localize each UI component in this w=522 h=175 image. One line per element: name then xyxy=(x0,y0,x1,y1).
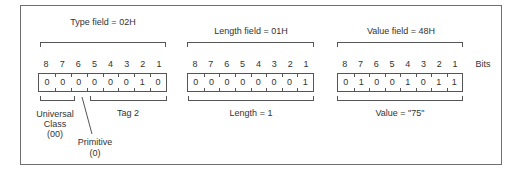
bit-cell: 1 xyxy=(400,74,416,91)
bit-cell: 0 xyxy=(338,74,354,91)
bit-cell: 0 xyxy=(55,74,71,91)
bit-cell: 1 xyxy=(447,74,463,91)
bit-cell: 0 xyxy=(385,74,401,91)
bit-cell: 0 xyxy=(266,74,282,91)
bit-number: 3 xyxy=(266,59,282,69)
bit-cell: 0 xyxy=(369,74,385,91)
primitive-label-line2: (0) xyxy=(90,148,101,158)
bit-number: 2 xyxy=(282,59,298,69)
value-bit-numbers: 8 7 6 5 4 3 2 1 xyxy=(337,59,463,69)
length-field-bits-box: 0 0 0 0 0 0 0 1 xyxy=(187,73,314,92)
bit-number: 1 xyxy=(298,59,314,69)
value-field-bits-box: 0 1 0 0 1 0 1 1 xyxy=(337,73,463,92)
bit-number: 8 xyxy=(38,59,54,69)
bit-number: 3 xyxy=(119,59,135,69)
bits-label: Bits xyxy=(475,59,490,69)
bit-number: 4 xyxy=(103,59,119,69)
bit-cell: 1 xyxy=(431,74,447,91)
bit-cell: 1 xyxy=(134,74,150,91)
type-field-bits-box: 0 0 0 0 0 0 1 0 xyxy=(38,73,167,92)
value-field-title: Value field = 48H xyxy=(367,26,435,36)
bit-cell: 0 xyxy=(188,74,204,91)
class-label-line3: (00) xyxy=(47,129,63,139)
bit-cell: 1 xyxy=(297,74,313,91)
class-label-line2: Class xyxy=(44,119,67,129)
bit-cell: 0 xyxy=(87,74,103,91)
bit-cell: 0 xyxy=(39,74,55,91)
bit-number: 5 xyxy=(235,59,251,69)
bit-number: 1 xyxy=(447,59,463,69)
bit-number: 2 xyxy=(432,59,448,69)
bit-number: 7 xyxy=(54,59,70,69)
type-bit-numbers: 8 7 6 5 4 3 2 1 xyxy=(38,59,167,69)
bit-cell: 0 xyxy=(150,74,166,91)
tag-label: Tag 2 xyxy=(117,108,139,118)
bit-cell: 0 xyxy=(71,74,87,91)
value-field-top-bracket xyxy=(337,42,463,47)
length-field-title: Length field = 01H xyxy=(214,26,287,36)
length-caption: Length = 1 xyxy=(230,108,273,118)
primitive-label-line1: Primitive xyxy=(78,137,113,147)
bit-number: 6 xyxy=(219,59,235,69)
bit-number: 7 xyxy=(203,59,219,69)
bit-cell: 0 xyxy=(103,74,119,91)
bit-cell: 0 xyxy=(416,74,432,91)
bit-cell: 0 xyxy=(204,74,220,91)
bit-number: 6 xyxy=(70,59,86,69)
tag-bracket xyxy=(90,96,167,101)
bit-cell: 0 xyxy=(251,74,267,91)
bit-cell: 0 xyxy=(219,74,235,91)
bit-number: 3 xyxy=(416,59,432,69)
bit-number: 4 xyxy=(251,59,267,69)
bit-number: 1 xyxy=(151,59,167,69)
bit-number: 8 xyxy=(187,59,203,69)
length-bottom-bracket xyxy=(188,96,314,101)
bit-number: 2 xyxy=(135,59,151,69)
bit-number: 8 xyxy=(337,59,353,69)
type-field-title: Type field = 02H xyxy=(70,17,135,27)
type-field-top-bracket xyxy=(40,42,166,47)
bit-cell: 0 xyxy=(118,74,134,91)
class-label-line1: Universal xyxy=(36,109,74,119)
length-bit-numbers: 8 7 6 5 4 3 2 1 xyxy=(187,59,314,69)
bit-number: 4 xyxy=(400,59,416,69)
length-field-top-bracket xyxy=(187,42,314,47)
bit-cell: 0 xyxy=(235,74,251,91)
bit-number: 7 xyxy=(353,59,369,69)
bit-cell: 0 xyxy=(282,74,298,91)
value-bottom-bracket xyxy=(337,96,463,101)
bit-number: 5 xyxy=(86,59,102,69)
class-bracket xyxy=(40,96,75,101)
bit-number: 5 xyxy=(384,59,400,69)
value-caption: Value = "75" xyxy=(375,108,424,118)
bit-cell: 1 xyxy=(354,74,370,91)
bit-number: 6 xyxy=(369,59,385,69)
